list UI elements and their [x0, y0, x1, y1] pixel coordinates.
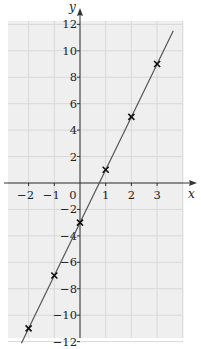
x-tick-label: 1	[102, 188, 109, 202]
y-tick-label: −4	[60, 229, 77, 243]
x-tick-label: 2	[128, 188, 135, 202]
y-axis-label: y	[68, 0, 76, 14]
y-tick-label: 12	[62, 17, 77, 31]
x-tick-label: 0	[69, 188, 76, 202]
x-tick-label: 3	[153, 188, 160, 202]
y-tick-label: 2	[70, 150, 77, 164]
y-tick-label: 8	[70, 70, 77, 84]
x-tick-label: −2	[17, 188, 34, 202]
y-axis-arrow-icon	[77, 8, 83, 16]
x-axis-arrow-icon	[189, 180, 197, 186]
line-graph: −2−10123−12−10−8−6−4−224681012 x y	[0, 0, 201, 349]
y-tick-label: −12	[53, 335, 77, 349]
y-tick-label: 6	[70, 97, 77, 111]
x-axis-label: x	[188, 187, 195, 201]
y-tick-label: 10	[62, 44, 77, 58]
y-tick-label: 4	[70, 123, 77, 137]
x-tick-label: −1	[43, 188, 60, 202]
y-tick-label: −10	[53, 308, 77, 322]
y-tick-label: −8	[60, 282, 77, 296]
y-tick-label: −2	[60, 202, 77, 216]
